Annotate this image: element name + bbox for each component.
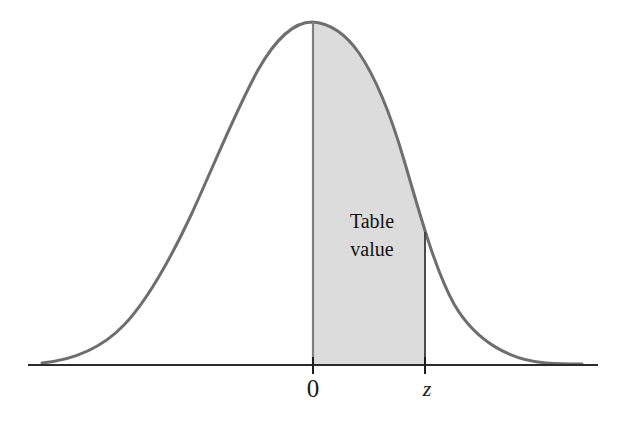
normal-curve-figure: 0 z Table value [0,0,626,424]
table-value-annotation-line2: value [350,238,393,260]
tick-label-zero: 0 [307,375,320,402]
table-value-annotation-line1: Table [350,210,394,232]
tick-label-z: z [422,376,432,401]
